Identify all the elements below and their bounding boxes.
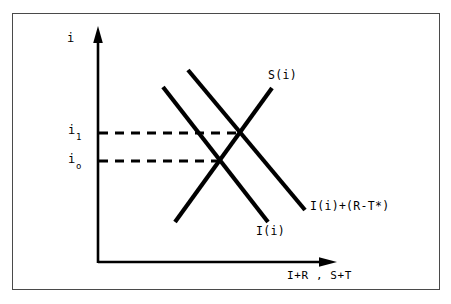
y-tick-label-i1: i1 — [68, 124, 81, 139]
y-tick-label-i0: io — [68, 153, 81, 168]
investment-curve — [163, 87, 268, 222]
y-axis-arrow-icon — [93, 26, 103, 43]
y-tick-i0-base: i — [68, 152, 76, 166]
y-tick-i1-subscript: 1 — [76, 132, 82, 142]
figure-root: i I+R , S+T i1 io S(i) I(i) I(i)+(R-T*) — [0, 0, 451, 304]
y-tick-i1-base: i — [68, 123, 76, 137]
x-axis-arrow-icon — [319, 257, 337, 267]
y-tick-i0-subscript: o — [76, 161, 82, 171]
supply-curve-label: S(i) — [268, 70, 297, 82]
shifted-investment-curve-label: I(i)+(R-T*) — [310, 201, 389, 213]
y-axis-title: i — [67, 32, 75, 44]
investment-curve-label: I(i) — [256, 226, 285, 238]
x-axis-title: I+R , S+T — [287, 270, 352, 281]
